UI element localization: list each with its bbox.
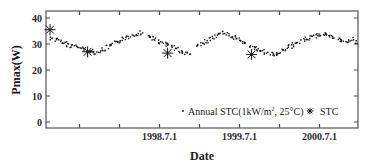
y-tick-label: 20 xyxy=(32,65,42,76)
x-tick-label: 1998.7.1 xyxy=(142,131,177,142)
chart-figure: 010203040 1998.7.11999.7.12000.7.1 Annua… xyxy=(0,0,370,165)
y-tick-label: 0 xyxy=(37,117,42,128)
y-tick-label: 30 xyxy=(32,39,42,50)
legend: Annual STC(1kW/m2, 25°C) STC xyxy=(182,106,339,118)
x-axis-ticks: 1998.7.11999.7.12000.7.1 xyxy=(80,11,338,142)
x-tick-label: 2000.7.1 xyxy=(302,131,337,142)
x-axis-title: Date xyxy=(190,149,215,163)
y-tick-label: 40 xyxy=(32,13,42,24)
legend-label-annual: Annual STC(1kW/m2, 25°C) xyxy=(188,106,304,118)
x-tick-label: 1999.7.1 xyxy=(222,131,257,142)
y-axis-title: Pmax(W) xyxy=(9,45,23,94)
data-points-stc xyxy=(45,24,258,60)
legend-dot-icon xyxy=(182,110,184,112)
y-tick-label: 10 xyxy=(32,91,42,102)
data-points-annual-stc xyxy=(49,30,357,56)
legend-asterisk-icon xyxy=(307,108,313,114)
legend-label-stc: STC xyxy=(320,106,339,117)
